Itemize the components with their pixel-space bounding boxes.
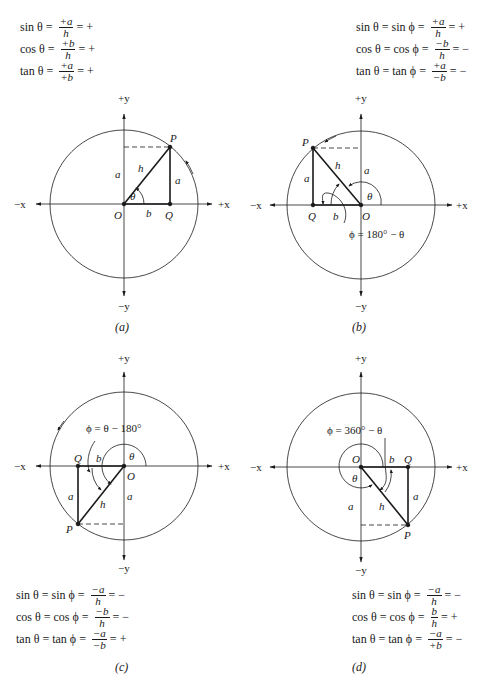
label-theta: θ bbox=[352, 472, 358, 484]
label-minus-x: −x bbox=[14, 198, 26, 210]
label-Q: Q bbox=[404, 453, 412, 465]
unit-circle-diagrams: +y −y +x −x O P Q a a b h θ +y −y +x −x … bbox=[0, 0, 489, 681]
hypotenuse-h bbox=[313, 148, 361, 205]
label-minus-y: −y bbox=[118, 300, 130, 312]
label-a-axis: a bbox=[115, 168, 121, 180]
label-plus-y: +y bbox=[355, 92, 367, 104]
phi-arc-tail bbox=[331, 184, 339, 203]
label-b: b bbox=[333, 210, 339, 222]
diagram-d bbox=[270, 372, 452, 562]
label-b: b bbox=[96, 452, 102, 464]
hypotenuse-h bbox=[78, 466, 124, 524]
label-P: P bbox=[403, 529, 411, 541]
label-O: O bbox=[352, 453, 360, 465]
diagram-c bbox=[36, 372, 212, 560]
label-minus-x: −x bbox=[250, 199, 262, 211]
label-Q: Q bbox=[165, 209, 173, 221]
phi-arc bbox=[92, 468, 101, 490]
label-b: b bbox=[389, 453, 395, 465]
label-minus-y: −y bbox=[355, 300, 367, 312]
label-Q: Q bbox=[308, 210, 316, 222]
label-minus-y: −y bbox=[355, 564, 367, 576]
label-h: h bbox=[100, 498, 106, 510]
label-a-side: a bbox=[68, 490, 74, 502]
label-plus-x: +x bbox=[456, 199, 468, 211]
label-phi-definition: ϕ = 360° − θ bbox=[327, 424, 382, 436]
label-Q: Q bbox=[74, 452, 82, 464]
theta-arc bbox=[349, 182, 381, 205]
label-O: O bbox=[362, 210, 370, 222]
label-h: h bbox=[335, 159, 341, 171]
label-a-axis: a bbox=[348, 500, 354, 512]
label-a-axis: a bbox=[127, 490, 133, 502]
label-O: O bbox=[127, 470, 135, 482]
label-plus-y: +y bbox=[118, 92, 130, 104]
label-P: P bbox=[169, 132, 177, 144]
label-minus-y: −y bbox=[118, 562, 130, 574]
label-a-side: a bbox=[304, 172, 310, 184]
label-theta: θ bbox=[129, 450, 135, 462]
label-a-axis: a bbox=[364, 164, 370, 176]
label-P: P bbox=[65, 523, 73, 535]
labels-d: +y −y +x −x O P Q a a b h θ ϕ = 360° − θ bbox=[250, 352, 468, 576]
label-plus-y: +y bbox=[118, 352, 130, 364]
label-b: b bbox=[146, 207, 152, 219]
label-plus-x: +x bbox=[218, 198, 230, 210]
diagram-b bbox=[270, 114, 452, 296]
label-phi-definition: ϕ = θ − 180° bbox=[86, 422, 141, 434]
rotation-arrow bbox=[186, 161, 193, 174]
label-minus-x: −x bbox=[14, 460, 26, 472]
label-theta: θ bbox=[367, 190, 373, 202]
label-theta: θ bbox=[130, 190, 136, 202]
theta-arc bbox=[136, 188, 144, 204]
label-h: h bbox=[379, 500, 385, 512]
diagram-a bbox=[36, 114, 212, 296]
phi-leader bbox=[88, 441, 95, 472]
label-plus-x: +x bbox=[218, 460, 230, 472]
label-phi-definition: ϕ = 180° − θ bbox=[349, 228, 404, 240]
rotation-arrow bbox=[58, 421, 64, 430]
label-a-side: a bbox=[175, 174, 181, 186]
rotation-arrow bbox=[325, 136, 336, 142]
label-P: P bbox=[301, 136, 309, 148]
label-plus-x: +x bbox=[456, 461, 468, 473]
label-plus-y: +y bbox=[355, 352, 367, 364]
label-O: O bbox=[114, 209, 122, 221]
label-h: h bbox=[138, 162, 144, 174]
label-a-side: a bbox=[413, 490, 419, 502]
hypotenuse-h bbox=[361, 467, 408, 525]
label-minus-x: −x bbox=[250, 461, 262, 473]
